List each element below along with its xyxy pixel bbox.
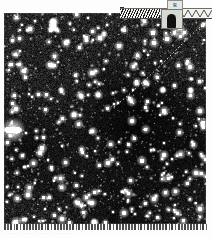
figure-caption: · · ·· · · ··· · · ·· · ·· · ·· · ··· — [4, 224, 208, 237]
arch-shape-icon — [167, 14, 176, 28]
caption-text: · · ·· · · ··· · · ·· · ·· · ·· · ··· — [4, 230, 208, 237]
band-hatch-pattern — [120, 9, 160, 18]
star-field-plate — [4, 13, 206, 224]
figure-root: R · · ·· · · ··· · · ·· · ·· · ·· · ··· — [0, 0, 212, 238]
arch-marker — [161, 9, 183, 29]
star-field-canvas — [4, 13, 206, 224]
